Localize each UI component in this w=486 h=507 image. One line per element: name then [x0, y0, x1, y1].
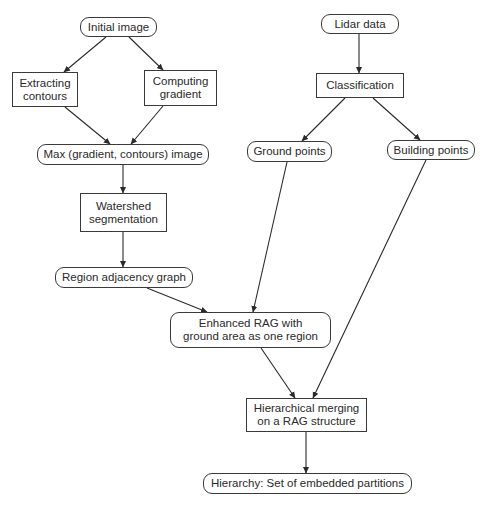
node-computing-gradient: Computing gradient: [144, 70, 217, 106]
edge-extracting-contours-to-max-image: [65, 107, 110, 144]
node-label: Max (gradient, contours) image: [43, 148, 202, 161]
node-label: Region adjacency graph: [62, 271, 186, 284]
node-initial-image: Initial image: [80, 17, 157, 37]
node-enhanced-rag: Enhanced RAG with ground area as one reg…: [170, 312, 331, 348]
node-max-image: Max (gradient, contours) image: [37, 144, 209, 165]
node-label: Hierarchical merging on a RAG structure: [254, 402, 359, 428]
node-label: Computing gradient: [153, 75, 209, 101]
edge-classification-to-building-points: [373, 98, 420, 140]
edge-initial-image-to-computing-gradient: [129, 37, 163, 70]
node-label: Classification: [326, 79, 394, 92]
edge-building-points-to-hierarchical-merging: [313, 160, 426, 398]
node-label: Extracting contours: [19, 77, 70, 103]
edge-ground-points-to-enhanced-rag: [253, 162, 287, 312]
node-classification: Classification: [316, 73, 404, 98]
node-ground-points: Ground points: [247, 141, 332, 162]
node-watershed: Watershed segmentation: [80, 193, 167, 232]
node-rag: Region adjacency graph: [55, 267, 193, 288]
node-lidar-data: Lidar data: [321, 14, 399, 34]
node-label: Building points: [394, 144, 469, 157]
node-label: Ground points: [253, 145, 325, 158]
edge-rag-to-enhanced-rag: [147, 288, 207, 312]
edge-computing-gradient-to-max-image: [131, 106, 163, 144]
node-label: Initial image: [88, 21, 149, 34]
edge-initial-image-to-extracting-contours: [64, 37, 106, 72]
node-hierarchy: Hierarchy: Set of embedded partitions: [203, 473, 412, 494]
node-building-points: Building points: [387, 140, 475, 160]
node-hierarchical-merging: Hierarchical merging on a RAG structure: [246, 398, 367, 432]
node-label: Hierarchy: Set of embedded partitions: [211, 477, 404, 490]
edge-classification-to-ground-points: [302, 98, 345, 141]
node-label: Lidar data: [334, 18, 385, 31]
node-extracting-contours: Extracting contours: [12, 72, 78, 107]
node-label: Enhanced RAG with ground area as one reg…: [183, 317, 318, 343]
edge-enhanced-rag-to-hierarchical-merging: [261, 348, 295, 398]
node-label: Watershed segmentation: [89, 200, 158, 226]
